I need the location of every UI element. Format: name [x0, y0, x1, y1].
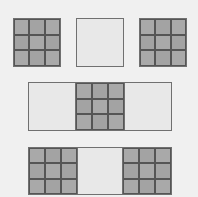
grid-cell: [155, 163, 171, 178]
grid-cell: [123, 148, 139, 163]
grid-cell: [108, 114, 124, 130]
grid-cell: [45, 50, 60, 66]
grid-cell: [14, 19, 29, 35]
grid-cell: [123, 179, 139, 194]
grid-cell: [61, 179, 77, 194]
bottom-right-grid-segment: [123, 148, 171, 194]
top-center-blank-square: [76, 18, 124, 67]
grid-cell: [29, 50, 44, 66]
grid-cell: [45, 35, 60, 51]
bottom-center-blank-segment: [77, 148, 123, 194]
grid-cell: [92, 83, 108, 99]
grid-cell: [155, 50, 170, 66]
middle-right-blank-segment: [124, 83, 171, 130]
grid-cell: [108, 99, 124, 115]
grid-cell: [139, 179, 155, 194]
grid-cell: [92, 99, 108, 115]
grid-cell: [14, 50, 29, 66]
grid-cell: [29, 19, 44, 35]
grid-cell: [155, 19, 170, 35]
bottom-composite-rectangle: [28, 147, 172, 195]
grid-cell: [171, 50, 186, 66]
grid-cell: [61, 148, 77, 163]
middle-center-grid-segment: [76, 83, 124, 130]
grid-cell: [140, 35, 155, 51]
grid-cell: [14, 35, 29, 51]
top-right-grid-square: [139, 18, 187, 67]
grid-cell: [155, 148, 171, 163]
grid-cell: [29, 35, 44, 51]
grid-cell: [45, 19, 60, 35]
grid-cell: [45, 163, 61, 178]
grid-cell: [139, 163, 155, 178]
grid-cell: [76, 99, 92, 115]
grid-cell: [61, 163, 77, 178]
grid-cell: [29, 148, 45, 163]
grid-cell: [171, 35, 186, 51]
grid-cell: [29, 179, 45, 194]
grid-cell: [171, 19, 186, 35]
grid-cell: [140, 19, 155, 35]
grid-cell: [76, 114, 92, 130]
grid-cell: [45, 148, 61, 163]
bottom-left-grid-segment: [29, 148, 77, 194]
top-left-grid-square: [13, 18, 61, 67]
grid-cell: [155, 35, 170, 51]
grid-cell: [92, 114, 108, 130]
grid-cell: [108, 83, 124, 99]
grid-cell: [29, 163, 45, 178]
middle-composite-rectangle: [28, 82, 172, 131]
grid-cell: [76, 83, 92, 99]
grid-cell: [45, 179, 61, 194]
grid-cell: [139, 148, 155, 163]
grid-cell: [123, 163, 139, 178]
grid-cell: [155, 179, 171, 194]
middle-left-blank-segment: [29, 83, 76, 130]
grid-cell: [140, 50, 155, 66]
